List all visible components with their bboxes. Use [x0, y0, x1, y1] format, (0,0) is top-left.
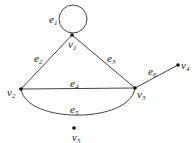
label-e3: e3	[107, 52, 116, 66]
label-v5: v5	[72, 131, 81, 143]
label-v1: v1	[68, 38, 76, 52]
edge-e6	[135, 65, 178, 88]
label-e1: e1	[49, 13, 57, 27]
label-e4: e4	[70, 77, 79, 91]
vertex-v2	[19, 87, 23, 91]
label-e6: e6	[148, 65, 157, 79]
vertex-v1	[70, 33, 74, 37]
label-e2: e2	[34, 52, 43, 66]
label-v3: v3	[137, 88, 146, 102]
vertex-v4	[176, 63, 180, 67]
graph-diagram: v1 v2 v3 v4 v5 e1 e2 e3 e4 e5 e6	[0, 0, 193, 143]
label-v2: v2	[7, 86, 16, 100]
label-v4: v4	[181, 59, 190, 73]
edge-e1-loop	[59, 5, 87, 33]
edge-e3	[72, 35, 135, 88]
vertex-v5	[72, 126, 76, 130]
label-e5: e5	[70, 103, 79, 117]
edge-e2	[21, 35, 72, 89]
